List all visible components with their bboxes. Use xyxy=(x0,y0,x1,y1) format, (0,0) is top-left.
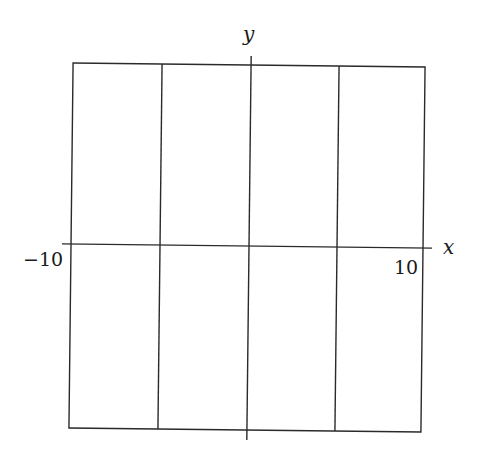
grid-line-x-pos5 xyxy=(335,66,339,431)
x-max-tick-label: 10 xyxy=(394,256,418,278)
grid-line-x-neg5 xyxy=(158,64,162,429)
grid-svg: y x −10 10 xyxy=(0,0,483,459)
x-axis xyxy=(62,244,432,248)
y-axis-label: y xyxy=(242,22,255,46)
coordinate-grid-figure: y x −10 10 xyxy=(0,0,483,459)
x-min-tick-label: −10 xyxy=(23,248,63,270)
x-axis-label: x xyxy=(443,235,454,259)
y-axis xyxy=(247,56,251,440)
